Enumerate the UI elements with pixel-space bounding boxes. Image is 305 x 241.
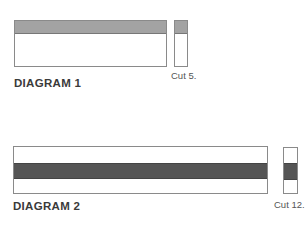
diagram-1-cut-label: Cut 5.: [171, 70, 196, 81]
diagram-2-cut-piece: [283, 147, 298, 194]
diagram-2-title: DIAGRAM 2: [13, 200, 80, 212]
diagram-1-cut-piece: [174, 20, 188, 67]
diagram-2-cut-piece-band: [284, 163, 297, 180]
diagram-1-fabric-strip: [14, 20, 167, 67]
diagram-1-shaded-band: [15, 21, 166, 34]
diagram-2-cut-label: Cut 12.: [274, 199, 305, 210]
diagram-1-title: DIAGRAM 1: [14, 77, 81, 89]
diagram-2-fabric-strip: [13, 146, 268, 194]
diagram-2-shaded-band: [14, 163, 267, 179]
diagram-1-cut-piece-band: [175, 21, 187, 34]
